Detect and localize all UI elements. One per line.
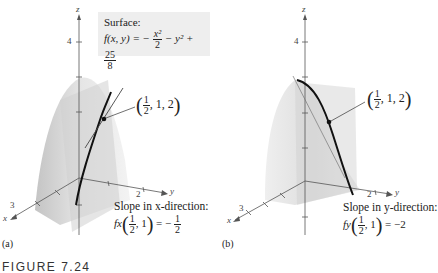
figure-caption: FIGURE 7.24 bbox=[2, 260, 91, 273]
slope-title: Slope in y-direction: bbox=[343, 201, 438, 213]
panel-b: z 4 y 2 x 3 (12, 1, 2) Slope in y-direct… bbox=[215, 0, 429, 250]
z-tick-label: 4 bbox=[294, 36, 299, 46]
panel-label-b: (b) bbox=[222, 238, 234, 249]
point-label: (12, 1, 2) bbox=[136, 94, 180, 117]
z-axis-label: z bbox=[76, 4, 80, 14]
surface-equation-box: Surface: f(x, y) = − x² 2 − y² + 25 8 bbox=[98, 12, 210, 56]
x-axis-label: x bbox=[3, 213, 7, 223]
x-axis-label: x bbox=[227, 215, 231, 225]
fraction-x2-over-2: x² 2 bbox=[153, 29, 162, 50]
panel-label-a: (a) bbox=[2, 238, 13, 249]
point-label: (12, 1, 2) bbox=[367, 88, 411, 111]
slope-equation: fy(12, 1) = −2 bbox=[343, 214, 406, 237]
surface-title: Surface: bbox=[104, 15, 204, 29]
panel-a: z 4 y 2 x 3 Surface: f(x, y) = − x² 2 − … bbox=[0, 0, 215, 250]
x-tick-label: 3 bbox=[10, 200, 15, 210]
surface-middle: − y² + bbox=[165, 32, 194, 44]
x-tick-label: 3 bbox=[239, 203, 244, 213]
slope-title: Slope in x-direction: bbox=[114, 200, 209, 212]
z-axis-label: z bbox=[302, 4, 306, 14]
point-marker bbox=[327, 120, 332, 125]
cutting-plane bbox=[295, 82, 357, 205]
z-tick-label: 4 bbox=[67, 36, 72, 46]
slope-equation: fx(12, 1) = − 12 bbox=[114, 213, 181, 236]
y-axis-label: y bbox=[170, 186, 174, 196]
fraction-25-over-8: 25 8 bbox=[104, 50, 116, 71]
y-tick-label: 2 bbox=[367, 189, 372, 199]
y-axis-label: y bbox=[395, 187, 399, 197]
point-marker bbox=[102, 117, 107, 122]
y-tick-label: 2 bbox=[136, 189, 141, 199]
surface-lhs: f(x, y) = − bbox=[104, 32, 150, 44]
